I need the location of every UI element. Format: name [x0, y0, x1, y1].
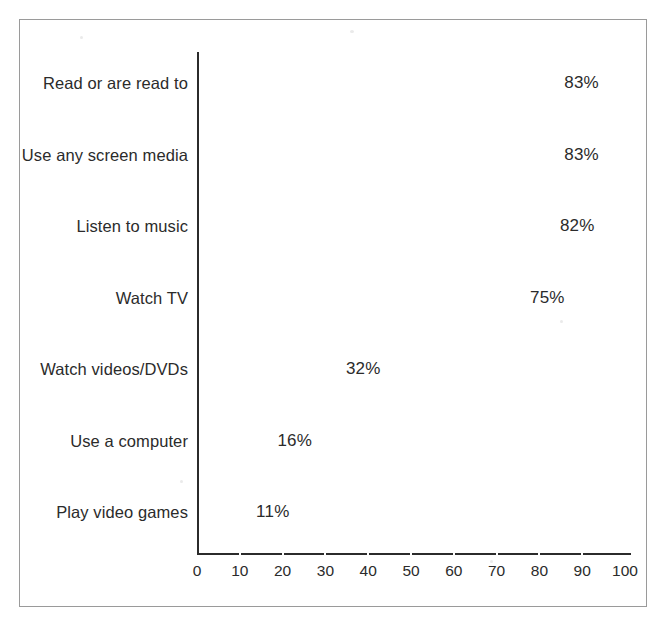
bar-gridlines — [197, 58, 552, 108]
category-label-2: Use any screen media — [0, 130, 188, 180]
x-axis-line — [197, 553, 631, 555]
category-label-3: Listen to music — [0, 201, 188, 251]
category-label-7: Play video games — [0, 487, 188, 537]
category-label-text: Watch videos/DVDs — [40, 360, 188, 379]
bar-value-label: 16% — [277, 431, 312, 451]
category-label-1: Read or are read to — [0, 58, 188, 108]
bar-gridlines — [197, 487, 244, 537]
x-axis-tick — [282, 553, 284, 557]
x-axis-label-50: 50 — [402, 562, 419, 580]
x-axis-tick — [453, 553, 455, 557]
category-label-text: Use a computer — [70, 431, 188, 450]
category-label-text: Listen to music — [76, 217, 188, 236]
x-axis-label-60: 60 — [445, 562, 462, 580]
bar-row: 83% — [197, 58, 631, 108]
x-axis-tick — [367, 553, 369, 557]
x-axis-label-0: 0 — [193, 562, 202, 580]
category-label-text: Watch TV — [116, 288, 188, 307]
x-axis-label-100: 100 — [612, 562, 638, 580]
category-label-5: Watch videos/DVDs — [0, 344, 188, 394]
bar-4[interactable] — [197, 273, 518, 323]
x-axis-tick — [538, 553, 540, 557]
chart-page: { "chart_data": { "type": "bar", "orient… — [0, 0, 666, 629]
bar-6[interactable] — [197, 416, 265, 466]
category-label-text: Use any screen media — [22, 145, 188, 164]
bar-value-label: 82% — [560, 216, 595, 236]
bar-value-label: 75% — [530, 288, 565, 308]
category-label-6: Use a computer — [0, 416, 188, 466]
bar-row: 75% — [197, 273, 631, 323]
bar-row: 11% — [197, 487, 631, 537]
bar-gridlines — [197, 273, 518, 323]
bar-value-label: 32% — [346, 359, 381, 379]
bar-gridlines — [197, 201, 548, 251]
x-axis-tick — [324, 553, 326, 557]
x-axis-tick — [239, 553, 241, 557]
x-axis-tick — [410, 553, 412, 557]
bar-5[interactable] — [197, 344, 334, 394]
bar-gridlines — [197, 416, 265, 466]
scan-speckle — [80, 36, 83, 39]
bar-row: 32% — [197, 344, 631, 394]
bar-2[interactable] — [197, 130, 552, 180]
bar-row: 16% — [197, 416, 631, 466]
x-axis-label-90: 90 — [574, 562, 591, 580]
scan-speckle — [180, 480, 183, 483]
x-axis-label-20: 20 — [274, 562, 291, 580]
x-axis-label-10: 10 — [231, 562, 248, 580]
bar-7[interactable] — [197, 487, 244, 537]
bar-value-label: 11% — [256, 502, 289, 522]
x-axis-tick — [581, 553, 583, 557]
bar-value-label: 83% — [564, 145, 599, 165]
bar-value-label: 83% — [564, 73, 599, 93]
x-axis-label-40: 40 — [360, 562, 377, 580]
x-axis-tick — [496, 553, 498, 557]
bar-row: 82% — [197, 201, 631, 251]
bar-gridlines — [197, 344, 334, 394]
x-axis-label-70: 70 — [488, 562, 505, 580]
x-axis-label-30: 30 — [317, 562, 334, 580]
bar-row: 83% — [197, 130, 631, 180]
bar-3[interactable] — [197, 201, 548, 251]
category-label-text: Play video games — [56, 503, 188, 522]
x-axis-label-80: 80 — [531, 562, 548, 580]
category-label-text: Read or are read to — [43, 74, 188, 93]
category-label-4: Watch TV — [0, 273, 188, 323]
bar-1[interactable] — [197, 58, 552, 108]
bar-gridlines — [197, 130, 552, 180]
scan-speckle — [350, 30, 354, 33]
